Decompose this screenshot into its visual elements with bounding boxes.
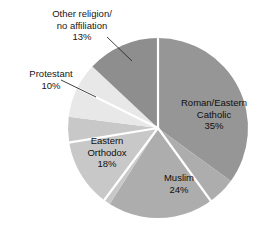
pie-value-muslim: 24%	[148, 184, 210, 196]
pie-label-other-religion-line1: Other religion/	[26, 8, 138, 20]
pie-label-other-religion: Other religion/ no affiliation 13%	[26, 8, 138, 43]
pie-label-muslim-line1: Muslim	[148, 172, 210, 184]
pie-value-eastern-orthodox: 18%	[72, 158, 142, 170]
pie-value-roman-eastern-catholic: 35%	[168, 120, 260, 132]
pie-chart-figure: Other religion/ no affiliation 13% Prote…	[0, 0, 274, 235]
pie-label-roman-eastern-catholic: Roman/Eastern Catholic 35%	[168, 97, 260, 132]
pie-label-roman-eastern-catholic-line1: Roman/Eastern	[168, 97, 260, 109]
pie-label-eastern-orthodox: Eastern Orthodox 18%	[72, 135, 142, 170]
pie-label-protestant: Protestant 10%	[8, 68, 94, 91]
pie-label-other-religion-line2: no affiliation	[26, 20, 138, 32]
pie-label-eastern-orthodox-line1: Eastern	[72, 135, 142, 147]
pie-label-eastern-orthodox-line2: Orthodox	[72, 147, 142, 159]
pie-value-protestant: 10%	[8, 80, 94, 92]
pie-value-other-religion: 13%	[26, 31, 138, 43]
pie-label-muslim: Muslim 24%	[148, 172, 210, 195]
pie-label-protestant-line1: Protestant	[8, 68, 94, 80]
pie-label-roman-eastern-catholic-line2: Catholic	[168, 109, 260, 121]
